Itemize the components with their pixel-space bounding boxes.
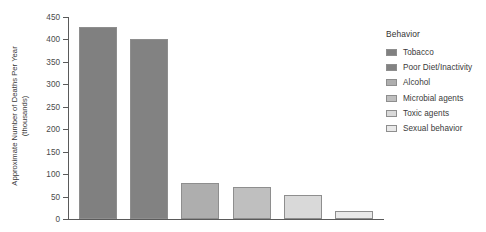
legend-swatch-icon <box>386 49 397 56</box>
legend-items: TobaccoPoor Diet/InactivityAlcoholMicrob… <box>386 45 486 136</box>
y-tick-label: 250 <box>46 102 60 111</box>
y-tick-label: 150 <box>46 147 60 156</box>
y-tick-label: 300 <box>46 80 60 89</box>
plot-area: 050100150200250300350400450 <box>68 17 376 219</box>
y-axis-title-line1: Approximate Number of Deaths Per Year <box>10 46 19 185</box>
legend-item-label: Poor Diet/Inactivity <box>403 63 472 72</box>
legend-item-label: Alcohol <box>403 78 430 87</box>
legend: Behavior TobaccoPoor Diet/InactivityAlco… <box>386 29 486 136</box>
y-tick-mark <box>63 129 69 130</box>
y-tick-mark <box>63 39 69 40</box>
y-tick-mark <box>63 219 69 220</box>
y-axis-title: Approximate Number of Deaths Per Year (t… <box>0 0 40 232</box>
y-tick-mark <box>63 84 69 85</box>
y-tick-mark <box>63 197 69 198</box>
y-tick-label: 50 <box>51 192 60 201</box>
legend-swatch-icon <box>386 64 397 71</box>
bar <box>284 195 322 219</box>
legend-swatch-icon <box>386 95 397 102</box>
y-tick-label: 100 <box>46 170 60 179</box>
legend-item: Poor Diet/Inactivity <box>386 60 486 75</box>
legend-item-label: Sexual behavior <box>403 124 462 133</box>
y-axis-line <box>68 17 69 219</box>
y-tick-label: 400 <box>46 35 60 44</box>
bar <box>79 27 117 219</box>
legend-item-label: Toxic agents <box>403 109 449 118</box>
bar <box>335 211 373 219</box>
y-tick-mark <box>63 107 69 108</box>
legend-swatch-icon <box>386 125 397 132</box>
bar <box>130 39 168 219</box>
x-axis-line <box>66 219 384 220</box>
bar-chart: Approximate Number of Deaths Per Year (t… <box>0 0 486 232</box>
y-tick-mark <box>63 174 69 175</box>
y-tick-label: 200 <box>46 125 60 134</box>
legend-item: Alcohol <box>386 75 486 90</box>
legend-item: Tobacco <box>386 45 486 60</box>
legend-swatch-icon <box>386 110 397 117</box>
legend-item-label: Microbial agents <box>403 94 463 103</box>
y-tick-mark <box>63 62 69 63</box>
y-tick-label: 0 <box>55 215 60 224</box>
legend-item-label: Tobacco <box>403 48 434 57</box>
legend-item: Toxic agents <box>386 106 486 121</box>
bar <box>233 187 271 219</box>
legend-swatch-icon <box>386 79 397 86</box>
y-axis-title-line2: (thousands) <box>20 46 30 185</box>
y-tick-mark <box>63 17 69 18</box>
legend-item: Sexual behavior <box>386 121 486 136</box>
legend-item: Microbial agents <box>386 91 486 106</box>
y-tick-label: 450 <box>46 13 60 22</box>
legend-title: Behavior <box>386 29 486 39</box>
y-tick-mark <box>63 152 69 153</box>
y-tick-label: 350 <box>46 57 60 66</box>
bar <box>181 183 219 219</box>
